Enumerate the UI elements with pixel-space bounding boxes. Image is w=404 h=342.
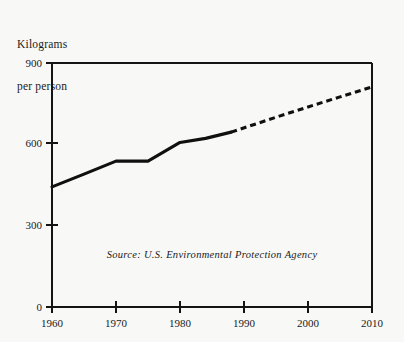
series-line-projected (231, 87, 372, 132)
series-line-historical (52, 132, 231, 187)
y-tick-label-0: 0 (37, 301, 43, 313)
x-tick-label-1970: 1970 (105, 317, 128, 329)
x-tick-label-1960: 1960 (41, 317, 64, 329)
x-tick-label-2010: 2010 (361, 317, 384, 329)
x-tick-label-1990: 1990 (233, 317, 256, 329)
y-tick-label-600: 600 (26, 137, 43, 149)
y-tick-label-900: 900 (26, 57, 43, 69)
source-note: Source: U.S. Environmental Protection Ag… (107, 249, 318, 260)
x-tick-label-1980: 1980 (169, 317, 192, 329)
chart-page: Kilograms per person 900 600 300 0 (0, 0, 404, 342)
y-tick-label-300: 300 (26, 219, 43, 231)
x-tick-label-2000: 2000 (297, 317, 320, 329)
line-chart: 900 600 300 0 1960 1970 1980 1990 2000 2… (0, 0, 404, 342)
